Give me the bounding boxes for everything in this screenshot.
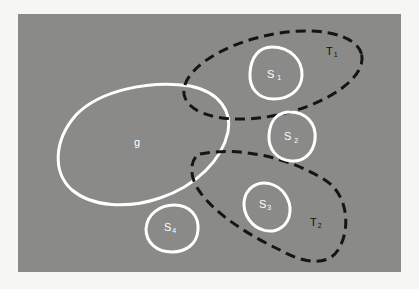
set-g-label: g: [134, 136, 140, 148]
diagram-panel: [18, 14, 401, 272]
diagram-canvas: g S1 S2 S3 S4 T1 T2: [0, 0, 419, 289]
venn-diagram: g S1 S2 S3 S4 T1 T2: [0, 0, 419, 289]
